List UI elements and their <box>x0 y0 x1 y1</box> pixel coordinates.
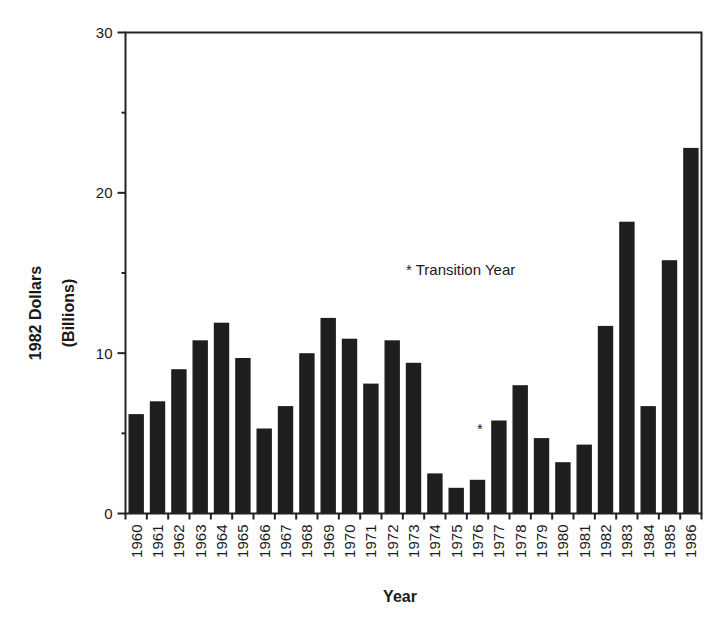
bar-1976 <box>470 480 485 514</box>
bar-1984 <box>641 406 656 513</box>
bar-1971 <box>363 384 378 514</box>
y-tick-label: 20 <box>96 184 113 201</box>
bar-1962 <box>171 369 186 513</box>
transition-year-legend: * Transition Year <box>406 261 515 278</box>
bar-1970 <box>342 339 357 514</box>
bar-1961 <box>150 401 165 513</box>
bars <box>129 148 699 514</box>
x-tick-label: 1971 <box>362 525 379 558</box>
bar-1974 <box>427 473 442 513</box>
x-tick-label: 1979 <box>533 525 550 558</box>
x-tick-label: 1977 <box>490 525 507 558</box>
x-tick-label: 1968 <box>298 525 315 558</box>
bar-1972 <box>385 340 400 513</box>
bar-1960 <box>129 414 144 513</box>
bar-1969 <box>321 318 336 514</box>
bar-1983 <box>619 222 634 514</box>
bar-chart: 1960196119621963196419651966196719681969… <box>0 0 726 625</box>
y-axis-title: 1982 Dollars <box>27 266 44 360</box>
y-axis-ticks: 0102030 <box>96 24 126 522</box>
x-tick-label: 1961 <box>149 525 166 558</box>
x-tick-label: 1972 <box>384 525 401 558</box>
bar-1964 <box>214 323 229 514</box>
x-tick-label: 1976 <box>469 525 486 558</box>
x-axis-title: Year <box>383 588 417 605</box>
bar-1968 <box>299 353 314 513</box>
bar-1981 <box>577 445 592 514</box>
y-tick-label: 0 <box>104 505 112 522</box>
bar-1967 <box>278 406 293 513</box>
bar-1982 <box>598 326 613 514</box>
x-tick-label: 1967 <box>277 525 294 558</box>
x-tick-label: 1962 <box>170 525 187 558</box>
bar-1975 <box>449 488 464 514</box>
x-tick-label: 1985 <box>661 525 678 558</box>
x-tick-label: 1965 <box>234 525 251 558</box>
bar-1977 <box>491 421 506 514</box>
x-tick-label: 1960 <box>128 525 145 558</box>
x-tick-label: 1983 <box>618 525 635 558</box>
x-tick-label: 1980 <box>554 525 571 558</box>
bar-1978 <box>513 385 528 513</box>
x-tick-label: 1969 <box>320 525 337 558</box>
x-tick-label: 1975 <box>448 525 465 558</box>
bar-1985 <box>662 260 677 513</box>
x-tick-label: 1964 <box>213 525 230 558</box>
bar-1980 <box>555 462 570 513</box>
x-tick-label: 1963 <box>192 525 209 558</box>
x-tick-label: 1982 <box>597 525 614 558</box>
x-tick-label: 1966 <box>256 525 273 558</box>
bar-1963 <box>193 340 208 513</box>
x-tick-label: 1986 <box>682 525 699 558</box>
x-tick-label: 1970 <box>341 525 358 558</box>
x-tick-label: 1974 <box>426 525 443 558</box>
x-tick-label: 1978 <box>512 525 529 558</box>
bar-1979 <box>534 438 549 513</box>
x-axis-ticks: 1960196119621963196419651966196719681969… <box>126 514 702 558</box>
x-tick-label: 1984 <box>640 525 657 558</box>
y-tick-label: 30 <box>96 24 113 41</box>
y-tick-label: 10 <box>96 345 113 362</box>
y-axis-title-units: (Billions) <box>60 279 77 347</box>
transition-year-marker: * <box>477 420 483 437</box>
x-tick-label: 1981 <box>576 525 593 558</box>
bar-1965 <box>235 358 250 514</box>
x-tick-label: 1973 <box>405 525 422 558</box>
bar-1966 <box>257 429 272 514</box>
bar-1986 <box>683 148 698 514</box>
bar-1973 <box>406 363 421 514</box>
